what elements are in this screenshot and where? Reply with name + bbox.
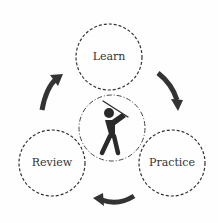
golfer-icon: [102, 101, 128, 153]
node-label-practice: Practice: [137, 156, 207, 169]
arrow-practice-to-review: [93, 193, 134, 206]
arrow-review-to-learn: [42, 74, 63, 110]
node-label-review: Review: [17, 156, 87, 169]
diagram-graphics: [0, 0, 218, 223]
node-label-learn: Learn: [74, 50, 144, 63]
learning-cycle-diagram: Learn Review Practice: [0, 0, 218, 223]
arrow-learn-to-practice: [158, 73, 183, 111]
